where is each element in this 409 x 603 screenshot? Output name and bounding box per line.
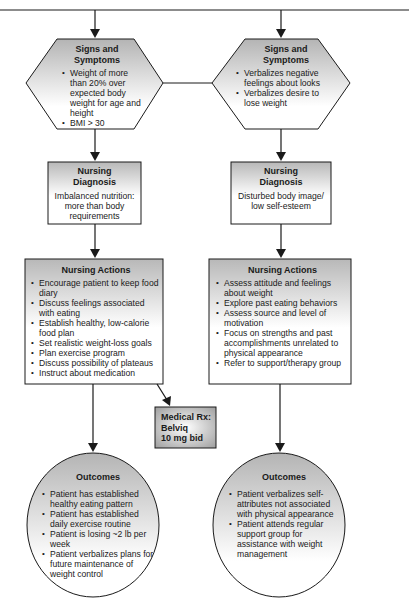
actions-node-left: Nursing Actions Encourage patient to kee… <box>31 265 161 378</box>
list-item: Patient has established healthy eating p… <box>42 489 154 509</box>
list-item: Assess source and level of motivation <box>216 308 349 328</box>
actions-node-right: Nursing Actions Assess attitude and feel… <box>216 265 349 368</box>
list-item: Encourage patient to keep food diary <box>31 278 161 298</box>
arrowhead-icon <box>162 396 171 406</box>
diagnosis-text-right: Disturbed body image/ low self-esteem <box>232 191 330 211</box>
list-item: BMI > 30 <box>62 118 142 128</box>
arrowhead-icon <box>276 29 286 38</box>
medical-rx-drug: Belviq <box>161 423 215 434</box>
list-item: Verbalizes desire to lose weight <box>236 88 336 108</box>
signs-title-left: Signs and Symptoms <box>52 44 142 65</box>
arrowhead-icon <box>90 29 100 38</box>
arrowhead-icon <box>88 443 98 452</box>
diagnosis-text-left: Imbalanced nutrition: more than body req… <box>49 191 140 221</box>
diagnosis-node-left: Nursing Diagnosis Imbalanced nutrition: … <box>49 166 140 221</box>
list-item: Patient has established daily exercise r… <box>42 509 154 529</box>
outcomes-node-right: Outcomes Patient verbalizes self-attribu… <box>229 472 339 559</box>
arrowhead-icon <box>275 443 285 452</box>
medical-rx-node: Medical Rx: Belviq 10 mg bid <box>161 412 215 444</box>
list-item: Weight of more than 20% over expected bo… <box>62 68 142 118</box>
list-item: Instruct about medication <box>31 368 161 378</box>
list-item: Assess attitude and feelings about weigh… <box>216 278 349 298</box>
list-item: Discuss possibility of plateaus <box>31 358 161 368</box>
list-item: Patient is losing ~2 lb per week <box>42 529 154 549</box>
diagnosis-title-left: Nursing Diagnosis <box>49 166 140 187</box>
list-item: Verbalizes negative feelings about looks <box>236 68 336 88</box>
signs-title-right: Signs and Symptoms <box>236 44 336 65</box>
list-item: Set realistic weight-loss goals <box>31 338 161 348</box>
list-item: Patient verbalizes plans for future main… <box>42 549 154 579</box>
signs-node-left: Signs and Symptoms Weight of more than 2… <box>52 44 142 128</box>
outcomes-title-right: Outcomes <box>229 472 339 483</box>
medical-rx-dose: 10 mg bid <box>161 433 215 444</box>
signs-node-right: Signs and Symptoms Verbalizes negative f… <box>236 44 336 108</box>
list-item: Patient attends regular support group fo… <box>229 519 339 559</box>
arrowhead-icon <box>90 249 100 258</box>
arrowhead-icon <box>276 249 286 258</box>
arrowhead-icon <box>90 152 100 161</box>
medical-rx-label: Medical Rx: <box>161 412 215 423</box>
list-item: Explore past eating behaviors <box>216 298 349 308</box>
list-item: Refer to support/therapy group <box>216 358 349 368</box>
actions-title-left: Nursing Actions <box>31 265 161 276</box>
diagnosis-node-right: Nursing Diagnosis Disturbed body image/ … <box>232 166 330 211</box>
list-item: Establish healthy, low-calorie food plan <box>31 318 161 338</box>
list-item: Focus on strengths and past accomplishme… <box>216 328 349 358</box>
diagnosis-title-right: Nursing Diagnosis <box>232 166 330 187</box>
list-item: Patient verbalizes self-attributes not a… <box>229 489 339 519</box>
arrowhead-icon <box>276 152 286 161</box>
outcomes-title-left: Outcomes <box>42 472 154 483</box>
list-item: Plan exercise program <box>31 348 161 358</box>
actions-title-right: Nursing Actions <box>216 265 349 276</box>
outcomes-node-left: Outcomes Patient has established healthy… <box>42 472 154 579</box>
list-item: Discuss feelings associated with eating <box>31 298 161 318</box>
